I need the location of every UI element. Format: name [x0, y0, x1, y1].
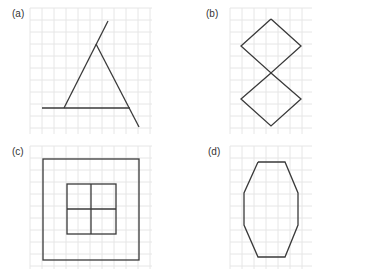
two-diamonds-vertex-to-vertex-shape	[241, 19, 301, 73]
diagram-canvas	[0, 0, 385, 269]
triangle-with-extended-sides-line	[64, 21, 108, 108]
two-diamonds-vertex-to-vertex-shape	[241, 73, 301, 126]
